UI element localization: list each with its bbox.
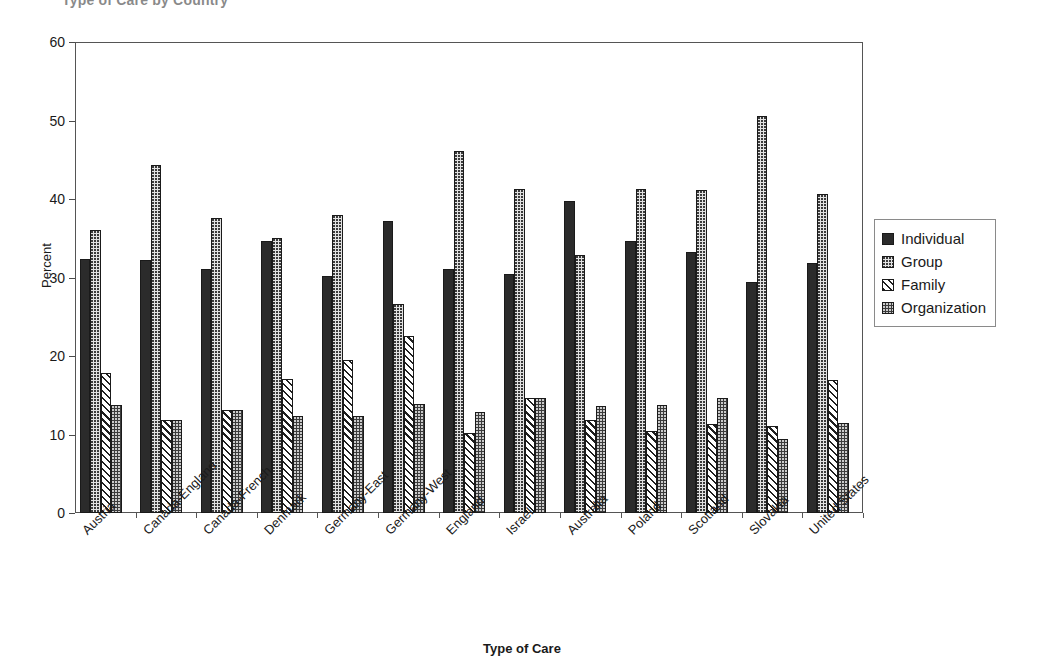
bar (332, 215, 343, 513)
bar (696, 190, 707, 513)
y-tick-label: 0 (31, 506, 65, 520)
legend-label: Organization (901, 300, 986, 315)
bar (282, 379, 293, 513)
x-tick-mark (317, 513, 318, 518)
x-tick-mark (378, 513, 379, 518)
bar (322, 276, 333, 513)
bar (817, 194, 828, 513)
bar (564, 201, 575, 513)
y-tick-mark (69, 513, 75, 514)
legend-swatch-icon (882, 233, 894, 245)
x-axis-title: Type of Care (0, 641, 1044, 656)
legend-item[interactable]: Family (882, 273, 986, 296)
bar (80, 259, 91, 513)
legend-label: Family (901, 277, 945, 292)
y-tick-label: 30 (31, 271, 65, 285)
bar (575, 255, 586, 513)
y-tick-label: 60 (31, 35, 65, 49)
y-axis-title: Percent (39, 206, 54, 326)
bar (757, 116, 768, 513)
chart-figure: Type of Care by Country Percent 01020304… (0, 0, 1044, 666)
bar (454, 151, 465, 513)
y-tick-label: 20 (31, 349, 65, 363)
x-tick-mark (439, 513, 440, 518)
bar (636, 189, 647, 513)
bar (140, 260, 151, 513)
legend: IndividualGroupFamilyOrganization (874, 219, 996, 327)
legend-label: Individual (901, 231, 964, 246)
legend-swatch-icon (882, 302, 894, 314)
legend-item[interactable]: Organization (882, 296, 986, 319)
legend-item[interactable]: Individual (882, 227, 986, 250)
x-tick-mark (196, 513, 197, 518)
bar (404, 336, 415, 513)
chart-title: Type of Care by Country (62, 0, 228, 8)
bar (383, 221, 394, 513)
x-tick-mark (742, 513, 743, 518)
x-tick-mark (257, 513, 258, 518)
bar (525, 398, 536, 513)
legend-label: Group (901, 254, 943, 269)
legend-item[interactable]: Group (882, 250, 986, 273)
legend-swatch-icon (882, 279, 894, 291)
bar (686, 252, 697, 513)
x-tick-mark (802, 513, 803, 518)
bar (111, 405, 122, 513)
bar (828, 380, 839, 513)
bar (514, 189, 525, 513)
bar (343, 360, 354, 513)
y-tick-label: 50 (31, 114, 65, 128)
bar (625, 241, 636, 513)
bar (535, 398, 546, 513)
x-tick-mark (621, 513, 622, 518)
bar (657, 405, 668, 513)
x-tick-mark (560, 513, 561, 518)
bar (151, 165, 162, 513)
bar (90, 230, 101, 513)
y-tick-label: 10 (31, 428, 65, 442)
x-tick-mark (499, 513, 500, 518)
bar (504, 274, 515, 513)
bar (393, 304, 404, 513)
x-tick-mark (681, 513, 682, 518)
bar (807, 263, 818, 513)
legend-swatch-icon (882, 256, 894, 268)
bar (746, 282, 757, 513)
bar (101, 373, 112, 514)
x-tick-mark (136, 513, 137, 518)
x-tick-mark (863, 513, 864, 518)
y-tick-label: 40 (31, 192, 65, 206)
